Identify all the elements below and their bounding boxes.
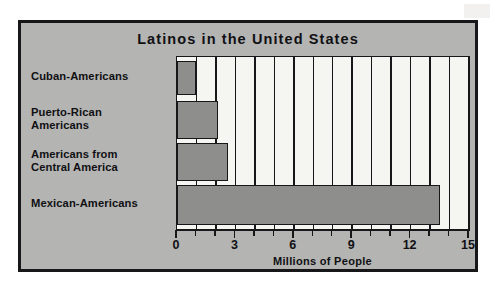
category-label-line: Americans xyxy=(31,119,173,133)
chart-title: Latinos in the United States xyxy=(21,31,475,47)
category-label-line: Puerto-Rican xyxy=(31,106,173,120)
bar-mexican-americans xyxy=(177,185,440,225)
category-label-puerto-rican-americans: Puerto-RicanAmericans xyxy=(31,106,173,133)
x-axis-tick xyxy=(292,230,294,238)
bar-americans-from-central-america xyxy=(177,143,228,181)
x-axis-tick xyxy=(175,230,177,238)
x-axis-tick-label: 9 xyxy=(348,238,355,252)
gridline xyxy=(468,57,470,229)
x-axis-tick xyxy=(350,230,352,238)
x-axis-tick-label: 15 xyxy=(461,238,475,252)
x-axis-tick xyxy=(370,230,372,236)
x-axis-tick xyxy=(389,230,391,236)
x-axis-tick-label: 12 xyxy=(403,238,417,252)
bar-puerto-rican-americans xyxy=(177,101,218,139)
x-axis-tick-label: 0 xyxy=(173,238,180,252)
x-axis-tick xyxy=(331,230,333,236)
plot-area xyxy=(176,56,470,230)
x-axis-title: Millions of People xyxy=(176,255,469,267)
x-axis-tick xyxy=(428,230,430,236)
category-label-column: Cuban-AmericansPuerto-RicanAmericansAmer… xyxy=(21,56,173,229)
page-speckle xyxy=(464,4,490,18)
x-axis-tick xyxy=(234,230,236,238)
category-label-cuban-americans: Cuban-Americans xyxy=(31,70,173,84)
x-axis-tick xyxy=(448,230,450,236)
x-axis-tick xyxy=(214,230,216,236)
category-label-line: Cuban-Americans xyxy=(31,70,173,84)
x-axis-tick xyxy=(312,230,314,236)
x-axis-tick xyxy=(253,230,255,236)
x-axis-tick xyxy=(467,230,469,238)
x-axis-tick xyxy=(195,230,197,236)
category-label-line: Mexican-Americans xyxy=(31,197,173,211)
category-label-line: Americans from xyxy=(31,148,173,162)
bar-cuban-americans xyxy=(177,61,196,95)
x-axis-tick-label: 6 xyxy=(289,238,296,252)
x-axis-tick-label: 3 xyxy=(231,238,238,252)
category-label-americans-from-central-america: Americans fromCentral America xyxy=(31,148,173,175)
category-label-mexican-americans: Mexican-Americans xyxy=(31,197,173,211)
chart-frame: Latinos in the United States Cuban-Ameri… xyxy=(18,20,478,272)
category-label-line: Central America xyxy=(31,161,173,175)
x-axis-line xyxy=(176,229,470,231)
x-axis-tick xyxy=(273,230,275,236)
gridline xyxy=(449,57,451,229)
x-axis-tick xyxy=(409,230,411,238)
